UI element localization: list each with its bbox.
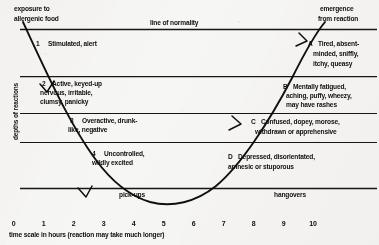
zone-4-line-2: wildly excited (92, 159, 133, 167)
x-tick-4: 4 (128, 220, 139, 228)
hangovers-label: hangovers (274, 191, 306, 199)
zone-b-letter: B (283, 83, 288, 91)
zone-c-line-2: withdrawn or apprehensive (255, 128, 337, 136)
zone-3-line-1: Overactive, drunk- (82, 117, 137, 125)
diagram-canvas: exposure to allergenic food line of norm… (0, 0, 379, 245)
zone-b-line-3: may have rashes (286, 101, 337, 109)
zone-d-letter: D (228, 153, 233, 161)
zone-1-line-1: Stimulated, alert (48, 40, 97, 48)
zone-3-number: 3 (70, 117, 74, 125)
zone-a-line-2: minded, sniffly, (313, 50, 358, 58)
pickups-label: pick-ups (119, 191, 145, 199)
emergence-label-line1: emergence (320, 5, 353, 13)
x-tick-8: 8 (248, 220, 259, 228)
zone-a-letter: A (308, 40, 313, 48)
x-tick-3: 3 (98, 220, 109, 228)
zone-d-line-2: amnesic or stuporous (228, 163, 294, 171)
zone-c-line-1: Confused, dopey, morose, (261, 118, 340, 126)
descent-arrowhead-lower (78, 186, 92, 197)
ascent-arrowhead-lower (229, 116, 241, 130)
zone-3-line-2: like, negative (68, 126, 107, 134)
exposure-label-line2: allergenic food (14, 15, 59, 23)
y-axis-label: depths of reactions (12, 81, 19, 143)
x-axis-label: time scale in hours (reaction may take m… (9, 231, 164, 239)
zone-d-line-1: Depressed, disorientated, (238, 153, 315, 161)
x-tick-2: 2 (68, 220, 79, 228)
ascent-arrowhead-upper (296, 33, 307, 46)
x-tick-5: 5 (158, 220, 169, 228)
zone-2-line-2: nervous, irritable, (40, 89, 92, 97)
x-tick-0: 0 (8, 220, 19, 228)
x-tick-7: 7 (218, 220, 229, 228)
x-tick-1: 1 (38, 220, 49, 228)
zone-4-number: 4 (92, 150, 96, 158)
zone-2-line-1: Active, keyed-up (52, 80, 102, 88)
zone-2-number: 2 (42, 80, 46, 88)
exposure-label-line1: exposure to (14, 5, 50, 13)
line-of-normality-label: line of normality (150, 19, 198, 27)
x-tick-6: 6 (188, 220, 199, 228)
emergence-label-line2: from reaction (318, 15, 358, 23)
zone-a-line-1: Tired, absent- (318, 40, 359, 48)
zone-1-number: 1 (36, 40, 40, 48)
zone-4-line-1: Uncontrolled, (104, 150, 145, 158)
zone-a-line-3: itchy, queasy (313, 60, 352, 68)
zone-c-letter: C (251, 118, 256, 126)
x-tick-9: 9 (278, 220, 289, 228)
x-tick-10: 10 (306, 220, 320, 228)
zone-b-line-2: aching, puffy, wheezy, (286, 92, 352, 100)
zone-b-line-1: Mentally fatigued, (293, 83, 346, 91)
zone-2-line-3: clumsy, panicky (40, 98, 88, 106)
